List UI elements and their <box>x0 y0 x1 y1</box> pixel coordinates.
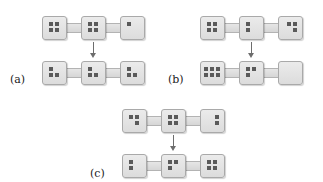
item-square <box>210 73 214 77</box>
item-square <box>213 28 217 32</box>
item-square <box>55 22 59 26</box>
item-square <box>213 160 217 164</box>
node-box-after <box>122 154 147 178</box>
item-square <box>88 73 92 77</box>
link-connector <box>185 116 201 126</box>
item-square <box>213 22 217 26</box>
item-square <box>246 67 250 71</box>
item-square <box>127 22 131 26</box>
link-connector <box>146 116 162 126</box>
item-square <box>204 67 208 71</box>
item-square <box>55 28 59 32</box>
node-box-before <box>161 109 186 133</box>
node-box-before <box>278 16 303 40</box>
node-box-before <box>42 16 67 40</box>
item-square <box>213 166 217 170</box>
panel-label: (b) <box>168 73 184 86</box>
item-square <box>88 28 92 32</box>
item-square <box>88 67 92 71</box>
item-square <box>293 28 297 32</box>
item-square <box>168 115 172 119</box>
item-square <box>94 73 98 77</box>
item-square <box>168 160 172 164</box>
item-square <box>94 22 98 26</box>
node-box-before <box>81 16 106 40</box>
item-square <box>216 67 220 71</box>
item-square <box>94 28 98 32</box>
arrow-down-icon <box>248 53 254 58</box>
link-connector <box>263 23 279 33</box>
node-box-before <box>200 16 225 40</box>
item-square <box>174 115 178 119</box>
item-square <box>49 67 53 71</box>
item-square <box>207 28 211 32</box>
item-square <box>216 73 220 77</box>
link-connector <box>224 68 240 78</box>
item-square <box>207 160 211 164</box>
item-square <box>246 22 250 26</box>
node-box-after <box>120 61 145 85</box>
item-square <box>49 22 53 26</box>
item-square <box>174 160 178 164</box>
link-connector <box>105 68 121 78</box>
link-connector <box>105 23 121 33</box>
link-connector <box>185 161 201 171</box>
panel-label: (a) <box>10 73 25 86</box>
item-square <box>129 160 133 164</box>
item-square <box>174 121 178 125</box>
item-square <box>49 28 53 32</box>
item-square <box>252 67 256 71</box>
arrow-down-icon <box>90 53 96 58</box>
item-square <box>168 166 172 170</box>
node-box-after <box>161 154 186 178</box>
node-box-after <box>200 154 225 178</box>
node-box-after <box>200 61 225 85</box>
item-square <box>246 28 250 32</box>
node-box-after <box>278 61 303 85</box>
link-connector <box>263 68 279 78</box>
item-square <box>210 67 214 71</box>
link-connector <box>66 23 82 33</box>
item-square <box>207 166 211 170</box>
item-square <box>215 115 219 119</box>
item-square <box>246 73 250 77</box>
item-square <box>293 22 297 26</box>
item-square <box>49 73 53 77</box>
item-square <box>207 22 211 26</box>
node-box-after <box>42 61 67 85</box>
node-box-after <box>81 61 106 85</box>
item-square <box>215 121 219 125</box>
item-square <box>127 73 131 77</box>
item-square <box>129 115 133 119</box>
link-connector <box>146 161 162 171</box>
arrow-down-icon <box>170 146 176 151</box>
node-box-before <box>239 16 264 40</box>
item-square <box>204 73 208 77</box>
item-square <box>129 166 133 170</box>
item-square <box>133 73 137 77</box>
node-box-before <box>200 109 225 133</box>
item-square <box>168 121 172 125</box>
item-square <box>88 22 92 26</box>
item-square <box>287 22 291 26</box>
item-square <box>135 115 139 119</box>
panel-label: (c) <box>90 167 105 180</box>
link-connector <box>224 23 240 33</box>
node-box-after <box>239 61 264 85</box>
item-square <box>135 121 139 125</box>
link-connector <box>66 68 82 78</box>
node-box-before <box>122 109 147 133</box>
item-square <box>55 73 59 77</box>
item-square <box>127 67 131 71</box>
node-box-before <box>120 16 145 40</box>
